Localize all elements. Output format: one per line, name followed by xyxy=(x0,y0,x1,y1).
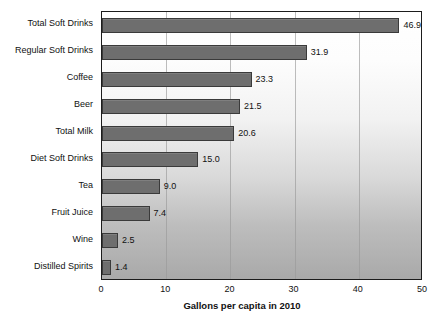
x-tick-label: 20 xyxy=(224,285,234,294)
bar[interactable] xyxy=(102,18,399,33)
bar-value-label: 23.3 xyxy=(256,75,274,84)
bar-row[interactable]: 7.4 xyxy=(102,206,421,221)
bar-row[interactable]: 23.3 xyxy=(102,72,421,87)
category-label: Wine xyxy=(72,235,93,244)
x-tick-label: 10 xyxy=(160,285,170,294)
x-tick-label: 50 xyxy=(417,285,427,294)
bar-chart: 46.931.923.321.520.615.09.07.42.51.4 Tot… xyxy=(0,0,444,319)
bar-value-label: 1.4 xyxy=(115,263,128,272)
x-axis-title: Gallons per capita in 2010 xyxy=(0,301,444,311)
category-label: Regular Soft Drinks xyxy=(15,46,93,55)
bar-row[interactable]: 1.4 xyxy=(102,260,421,275)
bar-row[interactable]: 46.9 xyxy=(102,18,421,33)
bar-value-label: 31.9 xyxy=(311,48,329,57)
category-label: Distilled Spirits xyxy=(34,262,93,271)
bar[interactable] xyxy=(102,152,198,167)
bar[interactable] xyxy=(102,233,118,248)
bar-value-label: 15.0 xyxy=(202,155,220,164)
bar[interactable] xyxy=(102,126,234,141)
x-tick-label: 40 xyxy=(353,285,363,294)
bar[interactable] xyxy=(102,206,150,221)
category-label: Coffee xyxy=(67,73,93,82)
bar-value-label: 2.5 xyxy=(122,236,135,245)
bar-row[interactable]: 2.5 xyxy=(102,233,421,248)
category-label: Total Soft Drinks xyxy=(27,19,93,28)
category-label: Beer xyxy=(74,100,93,109)
bar[interactable] xyxy=(102,99,240,114)
bar-value-label: 46.9 xyxy=(403,21,421,30)
plot-area: 46.931.923.321.520.615.09.07.42.51.4 xyxy=(101,11,422,280)
bar-value-label: 9.0 xyxy=(164,182,177,191)
bar-value-label: 21.5 xyxy=(244,102,262,111)
bar[interactable] xyxy=(102,179,160,194)
category-label: Fruit Juice xyxy=(51,208,93,217)
x-tick-label: 0 xyxy=(98,285,103,294)
bar-row[interactable]: 21.5 xyxy=(102,99,421,114)
bar-row[interactable]: 15.0 xyxy=(102,152,421,167)
bar-value-label: 20.6 xyxy=(238,129,256,138)
category-label: Diet Soft Drinks xyxy=(30,154,93,163)
bar[interactable] xyxy=(102,72,252,87)
category-label: Tea xyxy=(78,181,93,190)
bar-row[interactable]: 9.0 xyxy=(102,179,421,194)
bar[interactable] xyxy=(102,45,307,60)
bar-value-label: 7.4 xyxy=(154,209,167,218)
bar-row[interactable]: 20.6 xyxy=(102,126,421,141)
bar-row[interactable]: 31.9 xyxy=(102,45,421,60)
bar[interactable] xyxy=(102,260,111,275)
x-tick-label: 30 xyxy=(289,285,299,294)
x-axis-title-text: Gallons per capita in 2010 xyxy=(183,301,300,311)
category-label: Total Milk xyxy=(55,127,93,136)
